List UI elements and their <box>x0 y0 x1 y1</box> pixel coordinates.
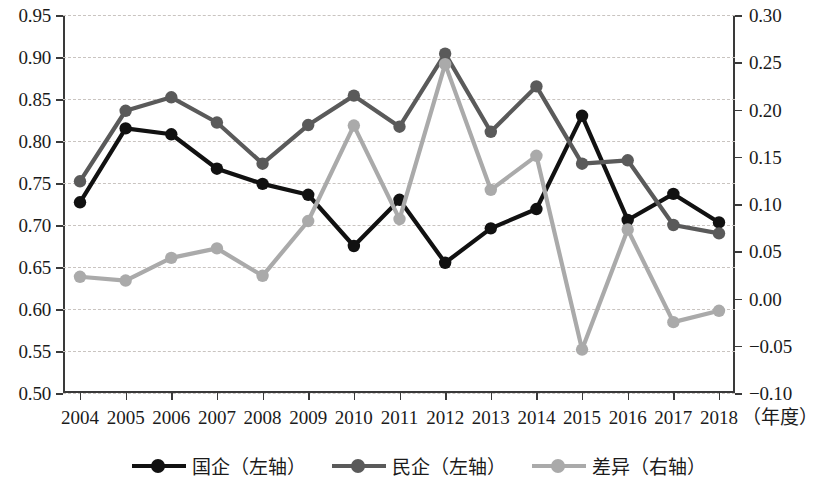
left-axis-tick-label: 0.90 <box>0 48 51 67</box>
left-axis-tick-label: 0.60 <box>0 300 51 319</box>
legend-item-差异[interactable]: 差异（右轴） <box>532 452 706 479</box>
x-axis-tick-label: 2017 <box>654 408 692 427</box>
x-axis-tick-label: 2018 <box>700 408 738 427</box>
right-axis-tick-label: 0.10 <box>749 195 781 214</box>
data-point <box>667 188 679 200</box>
data-point <box>211 163 223 175</box>
legend-label: 民企（左轴） <box>392 452 506 479</box>
x-axis-tick <box>536 393 537 400</box>
right-axis-tick <box>735 393 742 395</box>
data-point <box>74 196 86 208</box>
data-point <box>576 157 588 169</box>
left-axis-tick <box>56 267 63 269</box>
x-axis-tick <box>445 393 446 400</box>
data-point <box>302 189 314 201</box>
right-axis-tick-label: 0.05 <box>749 242 781 261</box>
left-axis-tick-label: 0.85 <box>0 90 51 109</box>
data-point <box>576 110 588 122</box>
right-axis-tick <box>735 157 742 159</box>
legend-marker-icon <box>132 458 186 474</box>
x-axis-tick <box>263 393 264 400</box>
x-axis-unit-label: （年度） <box>742 408 818 427</box>
data-point <box>165 252 177 264</box>
data-point <box>302 215 314 227</box>
legend-label: 国企（左轴） <box>192 452 306 479</box>
x-axis-tick <box>628 393 629 400</box>
data-point <box>256 270 268 282</box>
data-point <box>622 223 634 235</box>
left-axis-tick <box>56 351 63 353</box>
data-point <box>393 121 405 133</box>
x-axis-tick-label: 2004 <box>61 408 99 427</box>
right-axis-tick-label: 0.15 <box>749 148 781 167</box>
data-point <box>667 316 679 328</box>
right-axis-tick-label: −0.10 <box>749 384 792 403</box>
x-axis-tick-label: 2014 <box>517 408 555 427</box>
left-axis-tick-label: 0.80 <box>0 132 51 151</box>
data-point <box>622 154 634 166</box>
data-point <box>485 222 497 234</box>
data-point <box>211 116 223 128</box>
left-axis-tick <box>56 15 63 17</box>
x-axis-tick <box>719 393 720 400</box>
data-point <box>74 175 86 187</box>
x-axis-tick <box>582 393 583 400</box>
right-axis-tick <box>735 62 742 64</box>
data-point <box>165 91 177 103</box>
data-point <box>485 126 497 138</box>
data-point <box>119 122 131 134</box>
x-axis-tick-label: 2016 <box>609 408 647 427</box>
chart-legend: 国企（左轴）民企（左轴）差异（右轴） <box>0 452 837 479</box>
data-point <box>713 216 725 228</box>
x-axis-tick <box>354 393 355 400</box>
series-国企 <box>74 110 725 269</box>
legend-item-民企[interactable]: 民企（左轴） <box>332 452 506 479</box>
data-point <box>256 157 268 169</box>
right-axis-tick <box>735 299 742 301</box>
x-axis-tick-label: 2013 <box>472 408 510 427</box>
x-axis-tick-label: 2005 <box>107 408 145 427</box>
x-axis-tick-label: 2007 <box>198 408 236 427</box>
data-point <box>530 203 542 215</box>
data-point <box>530 80 542 92</box>
x-axis-tick-label: 2012 <box>426 408 464 427</box>
legend-marker-icon <box>332 458 386 474</box>
data-point <box>485 184 497 196</box>
x-axis-tick <box>400 393 401 400</box>
left-axis-tick-label: 0.50 <box>0 384 51 403</box>
left-axis-tick-label: 0.75 <box>0 174 51 193</box>
x-axis-tick <box>308 393 309 400</box>
right-axis-tick-label: 0.20 <box>749 101 781 120</box>
left-axis-tick-label: 0.95 <box>0 6 51 25</box>
legend-item-国企[interactable]: 国企（左轴） <box>132 452 306 479</box>
left-axis-tick-label: 0.70 <box>0 216 51 235</box>
data-point <box>165 128 177 140</box>
x-axis-tick-label: 2009 <box>289 408 327 427</box>
series-lines <box>63 15 735 393</box>
left-axis-tick <box>56 141 63 143</box>
legend-label: 差异（右轴） <box>592 452 706 479</box>
x-axis-tick-label: 2010 <box>335 408 373 427</box>
chart-figure: 0.950.900.850.800.750.700.650.600.550.50… <box>0 0 837 485</box>
data-point <box>256 178 268 190</box>
right-axis-tick-label: 0.30 <box>749 6 781 25</box>
data-point <box>74 271 86 283</box>
data-point <box>713 305 725 317</box>
data-point <box>667 219 679 231</box>
data-point <box>530 150 542 162</box>
data-point <box>713 227 725 239</box>
data-point <box>348 240 360 252</box>
left-axis-tick <box>56 309 63 311</box>
data-point <box>348 119 360 131</box>
data-point <box>348 89 360 101</box>
plot-area <box>63 15 735 393</box>
right-axis-tick-label: 0.25 <box>749 53 781 72</box>
right-axis-tick <box>735 110 742 112</box>
x-axis-tick-label: 2015 <box>563 408 601 427</box>
x-axis-tick <box>80 393 81 400</box>
x-axis-tick <box>126 393 127 400</box>
data-point <box>119 105 131 117</box>
left-axis-tick-label: 0.55 <box>0 342 51 361</box>
data-point <box>439 257 451 269</box>
right-axis-tick <box>735 204 742 206</box>
